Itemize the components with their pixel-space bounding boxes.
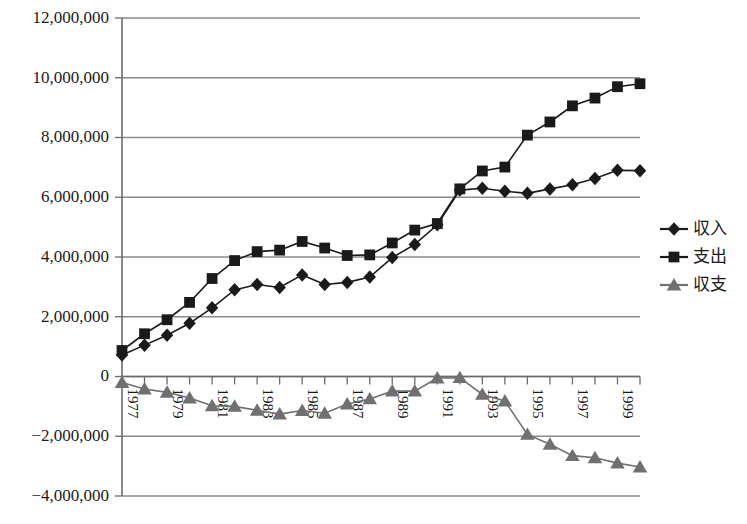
x-tick-label: 1997	[575, 389, 591, 420]
legend-label: 支出	[693, 247, 727, 266]
data-point	[499, 162, 510, 173]
data-point	[454, 183, 465, 194]
x-tick-label: 1999	[620, 389, 636, 419]
x-tick-label: 1989	[395, 389, 411, 419]
legend-label: 収支	[693, 275, 727, 294]
data-point	[297, 236, 308, 247]
data-point	[409, 225, 420, 236]
y-tick-label: −4,000,000	[31, 486, 109, 505]
chart-container: 12,000,00010,000,0008,000,0006,000,0004,…	[0, 0, 747, 524]
data-point	[545, 117, 556, 128]
y-tick-label: −2,000,000	[31, 426, 109, 445]
x-tick-label: 1993	[485, 389, 501, 419]
data-point	[364, 250, 375, 261]
y-tick-label: 0	[101, 366, 110, 385]
y-tick-label: 6,000,000	[41, 187, 109, 206]
data-point	[117, 345, 128, 356]
data-point	[635, 78, 646, 89]
legend-marker-square-icon	[669, 252, 680, 263]
data-point	[139, 328, 150, 339]
line-chart: 12,000,00010,000,0008,000,0006,000,0004,…	[0, 0, 747, 524]
y-axis-tick-labels: 12,000,00010,000,0008,000,0006,000,0004,…	[31, 8, 109, 505]
data-point	[229, 255, 240, 266]
x-tick-label: 1995	[530, 389, 546, 419]
data-point	[567, 100, 578, 111]
x-tick-label: 1991	[440, 389, 456, 419]
data-point	[477, 166, 488, 177]
data-point	[342, 250, 353, 261]
data-point	[274, 245, 285, 256]
data-point	[252, 246, 263, 257]
y-tick-label: 8,000,000	[41, 127, 109, 146]
data-point	[432, 218, 443, 229]
data-point	[319, 243, 330, 254]
y-tick-label: 12,000,000	[33, 8, 110, 27]
y-tick-label: 10,000,000	[33, 68, 110, 87]
y-tick-label: 2,000,000	[41, 307, 109, 326]
data-point	[612, 81, 623, 92]
data-point	[387, 238, 398, 249]
legend-label: 収入	[693, 219, 727, 238]
y-tick-label: 4,000,000	[41, 247, 109, 266]
data-point	[184, 297, 195, 308]
x-tick-label: 1981	[215, 389, 231, 419]
data-point	[162, 314, 173, 325]
data-point	[522, 130, 533, 141]
data-point	[207, 273, 218, 284]
data-point	[590, 93, 601, 104]
